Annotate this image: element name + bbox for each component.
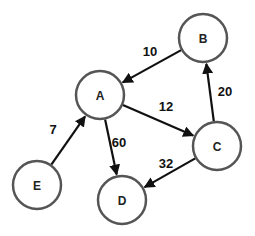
node-d: D (98, 176, 146, 224)
edge-weight-label: 32 (159, 156, 173, 171)
edges-layer (51, 50, 213, 187)
node-label: B (199, 32, 208, 46)
edge-weight-label: 7 (49, 122, 56, 137)
node-label: A (96, 89, 105, 103)
edge-weight-label: 60 (112, 135, 126, 150)
node-c: C (193, 122, 241, 170)
node-label: E (33, 179, 41, 193)
node-a: A (76, 71, 124, 119)
node-label: D (118, 194, 127, 208)
node-b: B (179, 14, 227, 62)
edge-c-to-b (206, 64, 213, 121)
node-e: E (13, 161, 61, 209)
edge-weight-label: 12 (159, 99, 173, 114)
node-label: C (213, 140, 222, 154)
graph-canvas: ABCDE 10122060327 (0, 0, 255, 236)
nodes-layer: ABCDE (13, 14, 241, 224)
edge-weight-label: 20 (218, 84, 232, 99)
edge-weight-label: 10 (143, 44, 157, 59)
